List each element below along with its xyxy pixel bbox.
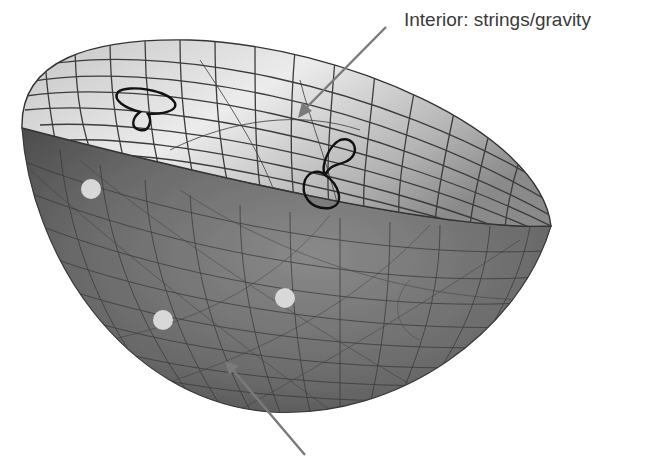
hemisphere-diagram — [0, 0, 652, 467]
interior-label: Interior: strings/gravity — [404, 9, 591, 31]
boundary-dot — [81, 179, 101, 199]
boundary-dot — [153, 310, 173, 330]
boundary-dot — [275, 288, 295, 308]
